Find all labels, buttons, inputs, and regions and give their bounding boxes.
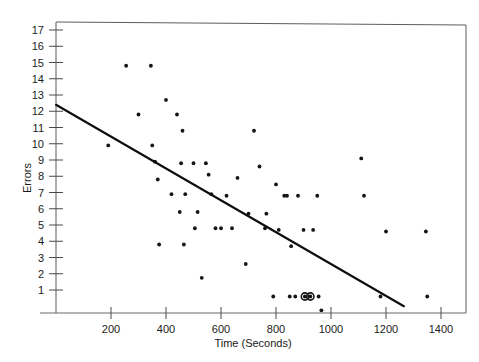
data-points [106, 64, 429, 312]
data-point [219, 226, 223, 230]
data-point [230, 226, 234, 230]
data-point [236, 176, 240, 180]
data-point [319, 308, 323, 312]
y-axis-title: Errors [21, 163, 33, 193]
data-point [315, 194, 319, 198]
x-tick-label: 800 [267, 323, 285, 335]
data-point [178, 210, 182, 214]
data-point [149, 64, 153, 68]
data-point [156, 178, 160, 182]
data-point [425, 295, 429, 299]
data-point [207, 173, 211, 177]
y-tick-label: 17 [32, 24, 44, 36]
y-tick-label: 14 [32, 73, 44, 85]
data-point [252, 129, 256, 133]
y-tick-label: 12 [32, 105, 44, 117]
x-tick-label: 600 [212, 323, 230, 335]
data-point [175, 113, 179, 117]
data-point [302, 228, 306, 232]
x-axis-ticks: 200400600800100012001400 [102, 307, 453, 335]
data-point [196, 210, 200, 214]
data-point [288, 295, 292, 299]
y-tick-label: 3 [38, 252, 44, 264]
x-tick-label: 200 [102, 323, 120, 335]
data-point [317, 295, 321, 299]
y-tick-label: 5 [38, 219, 44, 231]
data-point [293, 295, 297, 299]
data-point [150, 143, 154, 147]
plot-canvas: 200400600800100012001400 123456789101112… [0, 0, 479, 362]
data-point [285, 194, 289, 198]
data-point [181, 129, 185, 133]
data-point [274, 182, 278, 186]
data-point [244, 262, 248, 266]
y-tick-label: 8 [38, 170, 44, 182]
data-point [183, 192, 187, 196]
x-tick-label: 400 [157, 323, 175, 335]
y-tick-label: 4 [38, 235, 44, 247]
data-point [225, 194, 229, 198]
data-point [311, 228, 315, 232]
scatter-plot-figure: 200400600800100012001400 123456789101112… [0, 0, 479, 362]
x-tick-label: 1000 [319, 323, 343, 335]
data-point [264, 212, 268, 216]
y-tick-label: 10 [32, 138, 44, 150]
regression-line-segment [56, 105, 404, 307]
data-point [200, 276, 204, 280]
data-point [258, 165, 262, 169]
y-tick-label: 16 [32, 40, 44, 52]
y-tick-label: 6 [38, 203, 44, 215]
data-point [192, 161, 196, 165]
data-point [170, 192, 174, 196]
y-tick-label: 11 [33, 122, 44, 134]
data-point [296, 194, 300, 198]
data-point [164, 98, 168, 102]
data-point [106, 143, 110, 147]
data-point [204, 161, 208, 165]
y-tick-label: 13 [32, 89, 44, 101]
data-point [137, 113, 141, 117]
data-point [289, 244, 293, 248]
plot-frame [40, 22, 466, 313]
x-axis-title: Time (Seconds) [214, 337, 291, 349]
data-point [362, 194, 366, 198]
x-tick-label: 1400 [429, 323, 453, 335]
data-point [384, 230, 388, 234]
data-point [157, 243, 161, 247]
y-tick-label: 15 [32, 57, 44, 69]
regression-line [56, 105, 404, 307]
y-tick-label: 2 [38, 268, 44, 280]
y-tick-label: 9 [38, 154, 44, 166]
data-point [359, 156, 363, 160]
data-point [193, 226, 197, 230]
y-tick-label: 1 [38, 284, 44, 296]
x-tick-label: 1200 [374, 323, 398, 335]
data-point [277, 228, 281, 232]
y-tick-label: 7 [38, 187, 44, 199]
data-point [424, 230, 428, 234]
data-point [271, 295, 275, 299]
data-point [214, 226, 218, 230]
data-point [379, 295, 383, 299]
data-point [182, 243, 186, 247]
y-axis-ticks: 1234567891011121314151617 [32, 24, 63, 296]
data-point [124, 64, 128, 68]
data-point [179, 161, 183, 165]
